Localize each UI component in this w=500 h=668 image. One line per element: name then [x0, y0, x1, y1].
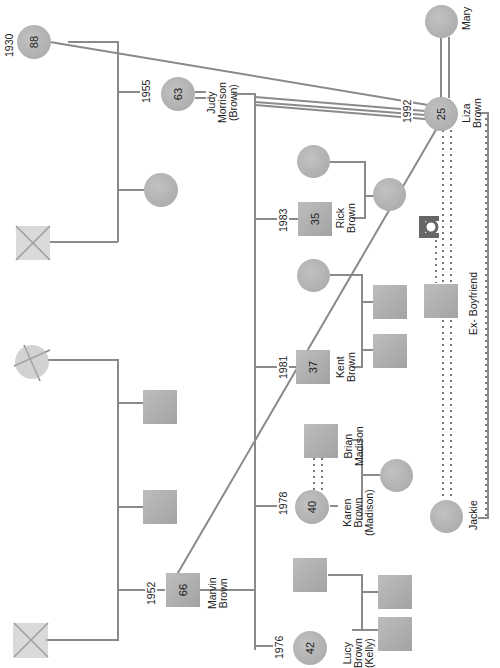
kent-child-2-square[interactable] [373, 334, 407, 368]
age-label: 42 [304, 642, 316, 654]
mary-circle[interactable] [425, 5, 458, 38]
kent-child-1-square[interactable] [373, 285, 407, 319]
ex-boyfriend-label: Ex- Boyfriend [468, 272, 479, 335]
liza-circle[interactable]: 25 [424, 97, 458, 131]
birth-year: 1976 [273, 635, 285, 660]
birth-year: 1952 [145, 581, 157, 606]
brian-madison-square[interactable] [304, 424, 338, 458]
rick-spouse-circle[interactable] [297, 145, 330, 178]
grandmother-88-circle[interactable]: 88 [17, 25, 51, 59]
marvin-brother-1-square[interactable] [143, 390, 177, 424]
rick-name-label: Rick Brown [335, 203, 357, 233]
lucy-child-2-square[interactable] [378, 617, 412, 651]
judy-name-label: Judy Morrison (Brown) [206, 82, 239, 123]
birth-year: 1955 [140, 79, 152, 104]
age-label: 25 [435, 108, 447, 120]
birth-year: 1978 [277, 491, 289, 516]
kent-name-label: Kent Brown [335, 352, 357, 382]
age-label: 63 [172, 88, 184, 100]
lucy-spouse-square[interactable] [293, 558, 327, 592]
age-label: 40 [306, 501, 318, 513]
separation-icon [419, 216, 439, 238]
liza-name-label: Liza Brown [461, 98, 483, 128]
marvin-brother-2-square[interactable] [143, 490, 177, 524]
lucy-child-1-square[interactable] [378, 575, 412, 609]
kent-spouse-circle[interactable] [297, 259, 330, 292]
judy-circle[interactable]: 63 [161, 77, 195, 111]
birth-year: 1930 [3, 33, 15, 58]
karen-name-label: Karen Brown (Madison) [342, 489, 375, 536]
birth-year: 1983 [277, 208, 289, 233]
marvin-name-label: Marvin Brown [207, 577, 229, 609]
lucy-name-label: Lucy Brown (Kelly) [342, 638, 375, 668]
marvin-father-square[interactable] [13, 623, 48, 658]
karen-circle[interactable]: 40 [295, 490, 329, 524]
jackie-circle[interactable] [430, 500, 463, 533]
marvin-mother-circle[interactable] [15, 345, 49, 379]
relationship-lines [0, 0, 500, 668]
birth-year: 1981 [277, 355, 289, 380]
age-label: 88 [28, 36, 40, 48]
marvin-square[interactable]: 66 [166, 573, 200, 607]
judy-father-square[interactable] [16, 226, 50, 260]
birth-year: 1992 [401, 99, 413, 124]
kent-square[interactable]: 37 [296, 350, 330, 384]
lucy-circle[interactable]: 42 [293, 631, 327, 665]
rick-square[interactable]: 35 [298, 202, 332, 236]
age-label: 35 [309, 213, 321, 225]
mary-name-label: Mary [461, 7, 472, 30]
judy-sibling-circle[interactable] [144, 173, 178, 207]
karen-child-circle[interactable] [380, 459, 413, 492]
age-label: 37 [307, 361, 319, 373]
genogram-canvas: 88 1930 63 1955 Judy Morrison (Brown) 66… [0, 0, 500, 668]
ex-boyfriend-square[interactable] [424, 284, 458, 318]
rick-child-circle[interactable] [373, 178, 406, 211]
brian-name-label: Brian Madison [343, 426, 365, 466]
age-label: 66 [177, 584, 189, 596]
jackie-name-label: Jackie [468, 500, 479, 530]
